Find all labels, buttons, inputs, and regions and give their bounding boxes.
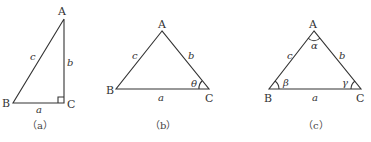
figure-a: A B C c b a （a）: [2, 5, 75, 131]
side-a-label: a: [158, 92, 164, 103]
vertex-B-label: B: [264, 92, 272, 105]
vertex-B-label: B: [106, 84, 114, 97]
figure-c: A B C c b a α β γ （c）: [264, 18, 364, 131]
angle-gamma-label: γ: [342, 77, 348, 88]
side-c-label: c: [30, 51, 36, 62]
triangle-a-edges: [13, 19, 64, 103]
vertex-C-label: C: [205, 92, 213, 105]
caption-b: （b）: [150, 120, 176, 131]
angle-theta-label: θ: [191, 78, 197, 89]
vertex-C-label: C: [356, 92, 364, 105]
vertex-A-label: A: [308, 18, 318, 31]
side-b-label: b: [339, 50, 345, 61]
caption-a: （a）: [27, 120, 53, 131]
figure-b: A B C c b a θ （b）: [106, 18, 213, 131]
side-a-label: a: [36, 104, 42, 115]
angle-beta-label: β: [282, 77, 289, 88]
vertex-A-label: A: [157, 18, 167, 31]
vertex-C-label: C: [67, 98, 75, 111]
angle-beta-arc: [275, 81, 279, 89]
triangle-figures: A B C c b a （a） A B C c b a θ （b） A B C …: [0, 0, 371, 142]
side-c-label: c: [287, 50, 293, 61]
side-a-label: a: [312, 92, 318, 103]
side-b-label: b: [67, 57, 73, 68]
side-b-label: b: [188, 50, 194, 61]
vertex-A-label: A: [57, 5, 67, 18]
vertex-B-label: B: [2, 97, 10, 110]
angle-theta-arc: [199, 81, 202, 89]
right-angle-marker: [58, 97, 64, 103]
angle-gamma-arc: [351, 81, 355, 89]
side-c-label: c: [132, 50, 138, 61]
angle-alpha-label: α: [311, 40, 318, 51]
caption-c: （c）: [303, 120, 329, 131]
